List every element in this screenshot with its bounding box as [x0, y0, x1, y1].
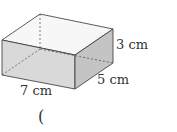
- depth-label: 5 cm: [97, 72, 129, 87]
- cuboid-diagram: [0, 0, 177, 132]
- length-label: 7 cm: [20, 83, 52, 98]
- height-label: 3 cm: [116, 37, 148, 52]
- answer-bracket: (: [38, 107, 44, 126]
